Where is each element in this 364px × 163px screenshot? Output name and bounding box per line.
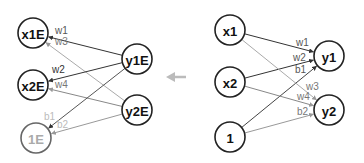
edge-label-b1: b1 xyxy=(295,64,307,75)
backward-network: w1w3w2w4b1b2x1Ex2E1Ey1Ey2E xyxy=(18,18,152,153)
node-label-y2E: y2E xyxy=(125,104,148,119)
direction-arrow-icon xyxy=(166,72,186,82)
node-label-1E: 1E xyxy=(28,132,44,147)
edge-label-w2: w2 xyxy=(51,64,65,75)
node-label-x1: x1 xyxy=(223,24,237,39)
edge-label-w2: w2 xyxy=(292,52,306,63)
node-label-1: 1 xyxy=(226,131,233,146)
node-label-y2: y2 xyxy=(322,104,336,119)
node-label-x2: x2 xyxy=(223,76,237,91)
node-label-y1: y1 xyxy=(322,50,336,65)
edge-label-w3: w3 xyxy=(54,36,68,47)
edge-label-w1: w1 xyxy=(295,37,309,48)
node-label-x1E: x1E xyxy=(21,27,44,42)
edge-label-w4: w4 xyxy=(54,79,68,90)
neural-network-diagram: w1w3w2w4b1b2x1Ex2E1Ey1Ey2E w1w2b1w3w4b2x… xyxy=(0,0,364,163)
edge-label-b2: b2 xyxy=(57,119,69,130)
edge-label-b2: b2 xyxy=(297,106,309,117)
node-label-y1E: y1E xyxy=(125,53,148,68)
edge-label-b1: b1 xyxy=(44,111,56,122)
edge-label-w4: w4 xyxy=(296,91,310,102)
edge-label-w1: w1 xyxy=(54,25,68,36)
node-label-x2E: x2E xyxy=(21,79,44,94)
forward-network: w1w2b1w3w4b2x1x21y1y2 xyxy=(215,15,344,152)
